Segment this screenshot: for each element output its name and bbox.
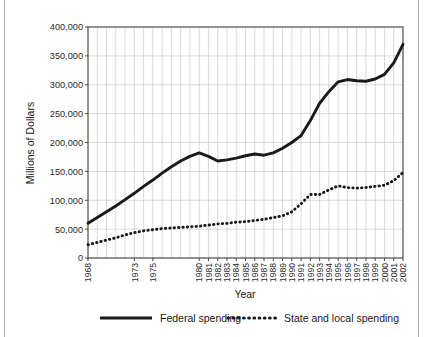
y-tick-label: 0 — [78, 253, 83, 263]
chart-figure: 050,000100,000150,000200,000250,000300,0… — [0, 0, 430, 337]
y-tick-label: 350,000 — [50, 51, 83, 61]
chart-legend: Federal spending State and local spendin… — [100, 312, 399, 324]
legend-label-state-local: State and local spending — [284, 312, 399, 324]
x-axis-tick-labels: 1968197319751980198119821983198419851986… — [83, 258, 408, 282]
gridlines — [88, 27, 403, 258]
x-axis-title: Year — [234, 288, 256, 300]
y-axis-tick-labels: 050,000100,000150,000200,000250,000300,0… — [50, 22, 88, 263]
x-tick-label: 1973 — [130, 263, 140, 282]
x-tick-label: 1975 — [148, 263, 158, 282]
x-tick-label: 1968 — [83, 263, 93, 282]
y-axis-title: Millions of Dollars — [24, 102, 36, 184]
y-tick-label: 400,000 — [50, 22, 83, 32]
y-tick-label: 200,000 — [50, 138, 83, 148]
y-tick-label: 250,000 — [50, 109, 83, 119]
y-tick-label: 150,000 — [50, 167, 83, 177]
line-chart: 050,000100,000150,000200,000250,000300,0… — [0, 0, 430, 337]
x-tick-label: 2002 — [398, 263, 408, 282]
y-tick-label: 300,000 — [50, 80, 83, 90]
y-tick-label: 50,000 — [55, 225, 83, 235]
y-tick-label: 100,000 — [50, 196, 83, 206]
